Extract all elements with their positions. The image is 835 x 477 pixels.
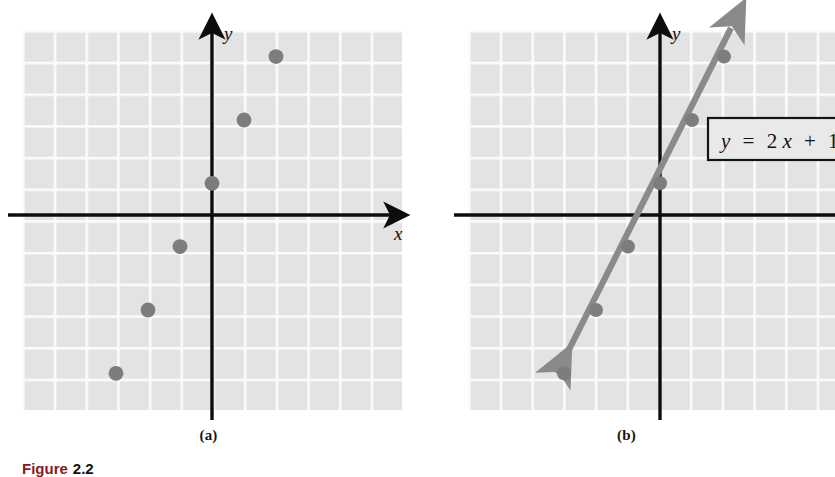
- data-point: [173, 239, 188, 254]
- data-point: [621, 240, 635, 254]
- scatter-plot-svg: x y: [0, 0, 417, 420]
- data-point: [269, 49, 284, 64]
- grid-background-b: [468, 30, 835, 410]
- data-point: [141, 303, 156, 318]
- equation-y: y: [719, 129, 731, 153]
- equation-equals: =: [743, 129, 755, 153]
- figure-caption-word: Figure: [22, 460, 68, 477]
- panel-scatter-plot: x y (a): [0, 0, 417, 477]
- panel-label-a: (a): [0, 427, 417, 444]
- data-point: [717, 50, 731, 64]
- data-point: [589, 303, 603, 317]
- x-axis-label-a: x: [393, 223, 403, 244]
- y-axis-label-b: y: [670, 23, 681, 44]
- panel-label-b: (b): [418, 427, 835, 444]
- y-axis-label-a: y: [222, 23, 233, 44]
- data-point: [653, 176, 667, 190]
- data-point: [237, 113, 252, 128]
- data-point: [685, 113, 699, 127]
- figure-caption: Figure2.2: [22, 460, 94, 477]
- equation-callout: y = 2 x + 1: [708, 118, 835, 160]
- equation-x: x: [781, 129, 792, 153]
- equation-plus: +: [804, 129, 816, 153]
- data-point: [109, 366, 124, 381]
- equation-coefficient: 2: [767, 129, 778, 153]
- figure-container: x y (a): [0, 0, 835, 477]
- equation-constant: 1: [828, 129, 835, 153]
- panel-line-plot: y y = 2 x + 1: [418, 0, 835, 477]
- figure-caption-number: 2.2: [73, 460, 94, 477]
- data-point: [557, 366, 571, 380]
- line-plot-svg: y y = 2 x + 1: [418, 0, 835, 420]
- data-point: [205, 176, 220, 191]
